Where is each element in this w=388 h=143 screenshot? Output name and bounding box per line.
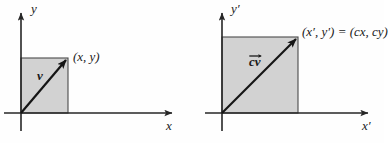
x-axis-label-left: x — [166, 119, 172, 132]
point-label-left: (x, y) — [73, 50, 100, 63]
y-axis-label-left: y — [31, 2, 37, 15]
panel-original-vector — [4, 13, 172, 131]
vector-overline-arrow-icon — [249, 53, 263, 59]
point-label-right: (x′, y′) = (cx, cy) — [302, 25, 388, 38]
vector-label-right-text-wrap: cv — [249, 55, 261, 68]
x-axis-label-right: x′ — [362, 119, 371, 132]
y-axis-label-right: y′ — [231, 2, 240, 15]
vector-label-left: v — [37, 69, 43, 82]
